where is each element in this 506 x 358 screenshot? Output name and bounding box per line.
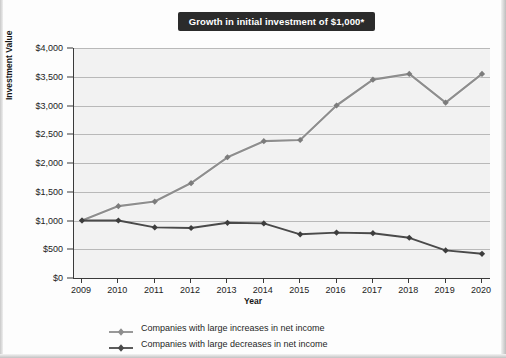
x-tick-label: 2012 [180,285,200,295]
plot-area [73,48,490,279]
x-tick-mark [445,278,446,283]
legend-marker-icon [108,323,134,333]
x-tick-label: 2020 [471,285,491,295]
legend-item[interactable]: Companies with large increases in net in… [0,320,506,336]
x-tick-label: 2015 [289,285,309,295]
x-tick-label: 2017 [362,285,382,295]
x-tick-label: 2016 [326,285,346,295]
chart-title: Growth in initial investment of $1,000* [189,16,364,27]
y-tick-label: $4,000 [35,43,63,53]
x-tick-mark [299,278,300,283]
chart-lines [74,48,490,278]
x-tick-label: 2019 [435,285,455,295]
legend-marker-icon [108,339,134,349]
y-tick-label: $1,000 [35,216,63,226]
x-tick-label: 2014 [253,285,273,295]
data-point-marker [333,229,339,235]
y-tick-label: $1,500 [35,187,63,197]
legend-item-inner: Companies with large increases in net in… [108,323,398,333]
x-tick-mark [81,278,82,283]
x-tick-mark [481,278,482,283]
data-point-marker [370,230,376,236]
x-tick-mark [226,278,227,283]
x-axis-title: Year [0,296,506,306]
y-axis-ticks: $4,000$3,500$3,000$2,500$2,000$1,500$1,0… [0,48,73,279]
y-tick-label: $0 [53,273,63,283]
y-tick-label: $3,500 [35,72,63,82]
x-tick-mark [117,278,118,283]
legend-label: Companies with large decreases in net in… [141,339,328,349]
x-tick-label: 2009 [71,285,91,295]
chart-title-banner: Growth in initial investment of $1,000* [178,12,375,31]
y-tick-label: $2,000 [35,158,63,168]
x-tick-label: 2013 [216,285,236,295]
x-tick-label: 2010 [107,285,127,295]
x-tick-mark [336,278,337,283]
chart-page: Growth in initial investment of $1,000* … [0,0,506,358]
x-tick-label: 2011 [144,285,163,295]
legend-item-inner: Companies with large decreases in net in… [108,339,398,349]
x-tick-mark [154,278,155,283]
x-tick-mark [372,278,373,283]
x-tick-mark [408,278,409,283]
series-line-highlight [82,74,482,221]
data-point-marker [479,251,485,257]
chart-legend: Companies with large increases in net in… [0,320,506,352]
page-edge-bottom [0,354,506,358]
y-tick-label: $2,500 [35,129,63,139]
x-tick-mark [263,278,264,283]
legend-label: Companies with large increases in net in… [141,323,325,333]
series-line [82,221,482,254]
data-point-marker [188,225,194,231]
y-tick-label: $500 [43,244,63,254]
series-line [82,74,482,221]
legend-item[interactable]: Companies with large decreases in net in… [0,336,506,352]
data-point-marker [224,220,230,226]
x-tick-label: 2018 [398,285,418,295]
y-tick-label: $3,000 [35,101,63,111]
x-tick-mark [190,278,191,283]
